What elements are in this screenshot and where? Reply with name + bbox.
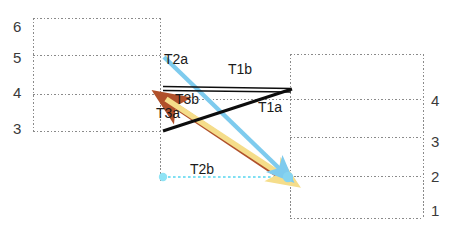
diagram-canvas: 6 5 4 3 4 3 2 1 T2a T1b T3b T1a T3a T2b (0, 0, 450, 229)
left-grid-group (33, 18, 160, 132)
vector-label-T1a: T1a (258, 100, 282, 114)
axis-left-tick-5: 5 (13, 50, 21, 65)
axis-right-tick-2: 2 (431, 169, 439, 184)
vector-label-T2b: T2b (190, 162, 214, 176)
axis-right-tick-1: 1 (431, 203, 439, 218)
axis-left-tick-3: 3 (13, 121, 21, 136)
vector-label-T3b: T3b (175, 92, 199, 106)
axis-right-tick-3: 3 (431, 134, 439, 149)
axis-left-tick-6: 6 (13, 19, 21, 34)
vector-T2b (159, 173, 290, 181)
vector-T2b-start-dot (159, 173, 167, 181)
right-grid-group (290, 54, 424, 219)
vector-T1b-line-upper (163, 87, 291, 89)
vector-T2a-end-dot (283, 172, 293, 182)
vector-label-T2a: T2a (164, 52, 188, 66)
vector-label-T1b: T1b (228, 62, 252, 76)
axis-left-tick-4: 4 (13, 85, 21, 100)
vector-label-T3a: T3a (156, 106, 180, 120)
axis-right-tick-4: 4 (431, 93, 439, 108)
vector-diagram-svg (0, 0, 450, 229)
vector-T2a-line (164, 57, 284, 173)
